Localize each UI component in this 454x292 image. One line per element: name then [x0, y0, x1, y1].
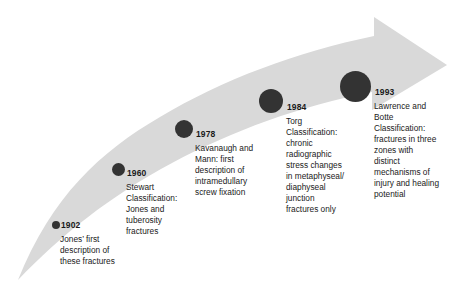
milestone-description-1978: Kavanaugh and Mann: first description of…	[195, 143, 259, 198]
milestone-dot-1993	[340, 71, 371, 102]
milestone-description-1993: Lawrence and Botte Classification: fract…	[374, 101, 440, 199]
milestone-year-1993: 1993	[375, 88, 394, 97]
milestone-description-1984: Torg Classification: chronic radiographi…	[286, 116, 348, 214]
milestone-year-1984: 1984	[287, 103, 306, 112]
milestone-description-1902: Jones’ first description of these fractu…	[60, 234, 116, 267]
milestone-year-1960: 1960	[127, 169, 146, 178]
milestone-dot-1978	[175, 120, 193, 138]
milestone-year-1902: 1902	[61, 221, 80, 230]
milestone-dot-1960	[112, 163, 125, 176]
timeline-diagram: 1902 Jones’ first description of these f…	[0, 0, 454, 292]
milestone-dot-1902	[52, 221, 60, 229]
milestone-description-1960: Stewart Classification: Jones and tubero…	[126, 182, 184, 237]
milestone-dot-1984	[259, 89, 283, 113]
milestone-year-1978: 1978	[196, 130, 215, 139]
